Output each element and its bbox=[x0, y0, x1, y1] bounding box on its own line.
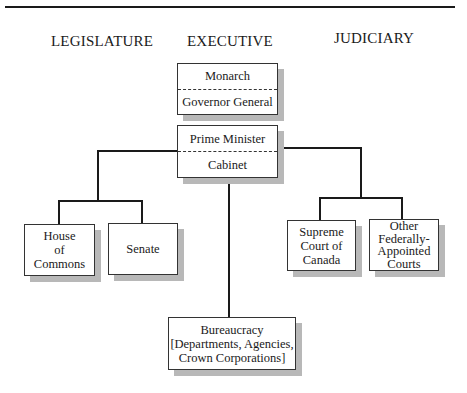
connector-legislature-bar bbox=[58, 200, 143, 202]
house-line2: of bbox=[25, 243, 94, 257]
monarch-label: Monarch bbox=[178, 64, 277, 89]
other-line4: Courts bbox=[370, 258, 438, 271]
house-line1: House bbox=[25, 229, 94, 243]
senate-label: Senate bbox=[109, 242, 177, 256]
connector-judiciary-bar bbox=[319, 197, 403, 199]
bureaucracy-line1: Bureaucracy bbox=[169, 323, 295, 337]
top-rule bbox=[5, 6, 455, 8]
box-bureaucracy: Bureaucracy [Departments, Agencies, Crow… bbox=[168, 317, 296, 370]
connector-bureaucracy bbox=[228, 177, 230, 318]
connector-right-down bbox=[360, 147, 362, 199]
supreme-line1: Supreme bbox=[288, 225, 355, 239]
heading-legislature: LEGISLATURE bbox=[51, 33, 153, 50]
box-senate: Senate bbox=[108, 223, 178, 275]
box-monarch-governor-general: Monarch Governor General bbox=[177, 63, 278, 115]
connector-house bbox=[58, 200, 60, 224]
other-line3: Appointed bbox=[370, 245, 438, 258]
bureaucracy-line3: Crown Corporations] bbox=[169, 351, 295, 365]
box-supreme-court: Supreme Court of Canada bbox=[287, 220, 356, 271]
heading-executive: EXECUTIVE bbox=[187, 33, 273, 50]
prime-minister-label: Prime Minister bbox=[178, 126, 277, 151]
governor-general-label: Governor General bbox=[178, 89, 277, 115]
other-line1: Other bbox=[370, 220, 438, 233]
supreme-line2: Court of bbox=[288, 239, 355, 253]
supreme-line3: Canada bbox=[288, 253, 355, 267]
house-line3: Commons bbox=[25, 257, 94, 271]
connector-left-down bbox=[97, 150, 99, 202]
connector-senate bbox=[141, 200, 143, 224]
heading-judiciary: JUDICIARY bbox=[334, 30, 414, 47]
connector-pm-right bbox=[277, 147, 362, 149]
box-other-federal-courts: Other Federally- Appointed Courts bbox=[369, 219, 439, 271]
connector-pm-left bbox=[98, 150, 178, 152]
box-prime-minister-cabinet: Prime Minister Cabinet bbox=[177, 125, 278, 178]
cabinet-label: Cabinet bbox=[178, 151, 277, 177]
bureaucracy-line2: [Departments, Agencies, bbox=[169, 337, 295, 351]
connector-supreme bbox=[319, 197, 321, 221]
box-house-of-commons: House of Commons bbox=[24, 224, 95, 276]
connector-other-courts bbox=[401, 197, 403, 220]
